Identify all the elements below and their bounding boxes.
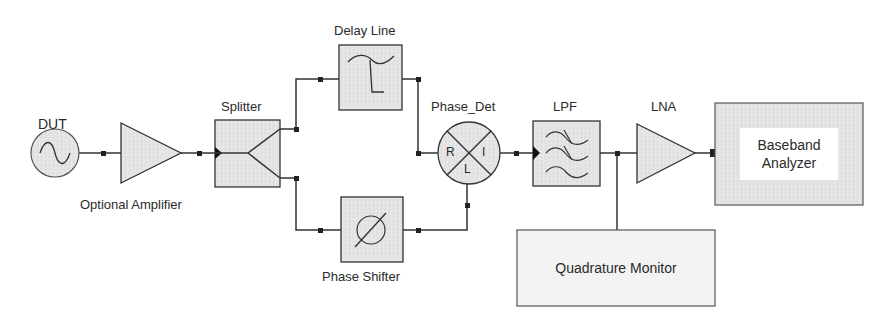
lna-label: LNA — [651, 99, 676, 114]
phase-det-port-l: L — [464, 162, 471, 176]
splitter-icon — [215, 120, 280, 187]
baseband-label-line2: Analyzer — [740, 154, 838, 172]
phase-det-port-r: R — [446, 145, 455, 159]
baseband-analyzer-label: Baseband Analyzer — [740, 136, 838, 172]
baseband-label-line1: Baseband — [740, 136, 838, 154]
delay-line-icon — [339, 45, 402, 110]
lpf-icon — [533, 121, 600, 186]
lpf-label: LPF — [553, 99, 577, 114]
quadrature-monitor-label: Quadrature Monitor — [517, 259, 715, 277]
lna-icon — [637, 124, 695, 183]
phase-shifter-icon — [341, 197, 403, 262]
dut-source-icon — [31, 129, 79, 177]
junction-dots — [101, 77, 718, 233]
optional-amplifier-icon — [121, 123, 181, 183]
delay-line-label: Delay Line — [334, 23, 395, 38]
splitter-label: Splitter — [221, 99, 261, 114]
optional-amplifier-label: Optional Amplifier — [80, 197, 182, 212]
phase-shifter-label: Phase Shifter — [322, 269, 400, 284]
phase-det-label: Phase_Det — [431, 99, 495, 114]
phase-det-port-i: I — [482, 145, 485, 159]
dut-label: DUT — [38, 116, 67, 132]
